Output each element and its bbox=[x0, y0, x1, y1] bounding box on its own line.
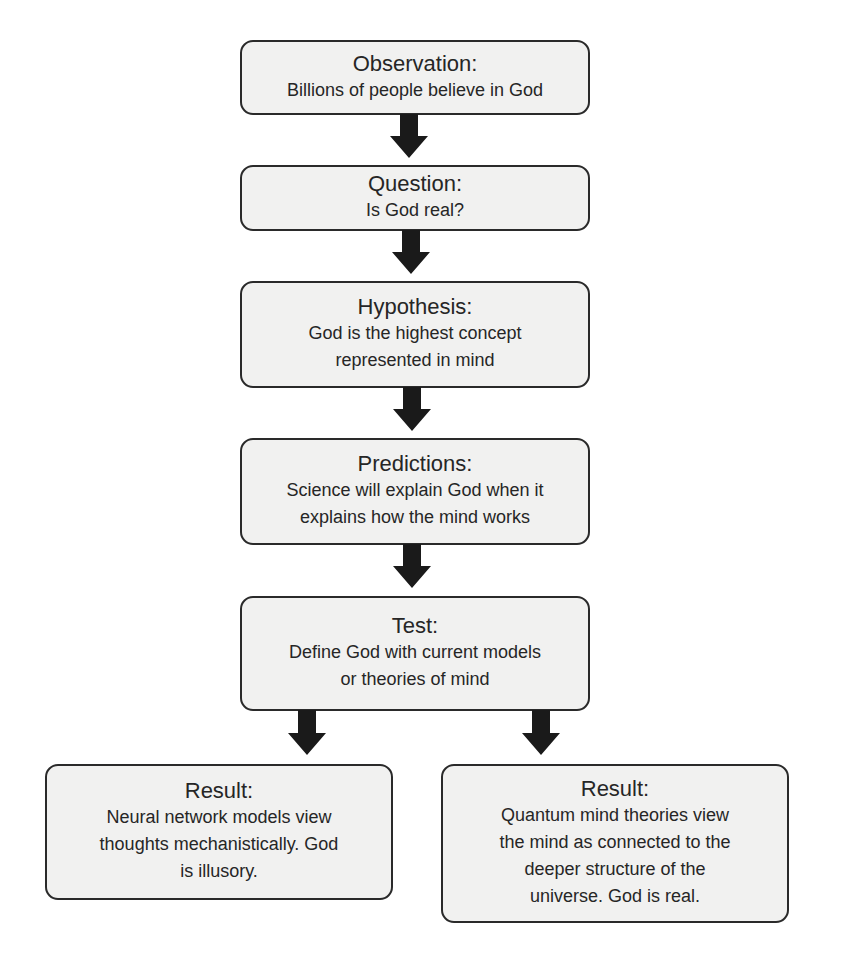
arrow-down-icon bbox=[389, 114, 429, 159]
node-result-left-title: Result: bbox=[185, 777, 253, 804]
node-hypothesis-title: Hypothesis: bbox=[358, 293, 473, 320]
node-test-body: Define God with current models or theori… bbox=[289, 639, 541, 693]
node-predictions-title: Predictions: bbox=[358, 450, 473, 477]
node-question: Question: Is God real? bbox=[240, 165, 590, 231]
node-result-right-body: Quantum mind theories view the mind as c… bbox=[499, 802, 730, 910]
node-observation-title: Observation: bbox=[353, 50, 478, 77]
node-hypothesis: Hypothesis: God is the highest concept r… bbox=[240, 281, 590, 388]
node-result-left-body: Neural network models view thoughts mech… bbox=[100, 804, 339, 885]
node-question-title: Question: bbox=[368, 170, 462, 197]
node-result-left: Result: Neural network models view thoug… bbox=[45, 764, 393, 900]
arrow-down-icon bbox=[287, 710, 327, 756]
node-observation: Observation: Billions of people believe … bbox=[240, 40, 590, 115]
node-predictions: Predictions: Science will explain God wh… bbox=[240, 438, 590, 545]
node-hypothesis-body: God is the highest concept represented i… bbox=[308, 320, 521, 374]
arrow-down-icon bbox=[521, 710, 561, 756]
node-test-title: Test: bbox=[392, 612, 438, 639]
node-question-body: Is God real? bbox=[366, 197, 464, 224]
node-test: Test: Define God with current models or … bbox=[240, 596, 590, 711]
arrow-down-icon bbox=[392, 544, 432, 589]
node-predictions-body: Science will explain God when it explain… bbox=[286, 477, 543, 531]
node-observation-body: Billions of people believe in God bbox=[287, 77, 543, 104]
node-result-right: Result: Quantum mind theories view the m… bbox=[441, 764, 789, 923]
node-result-right-title: Result: bbox=[581, 775, 649, 802]
arrow-down-icon bbox=[392, 387, 432, 432]
arrow-down-icon bbox=[391, 230, 431, 275]
